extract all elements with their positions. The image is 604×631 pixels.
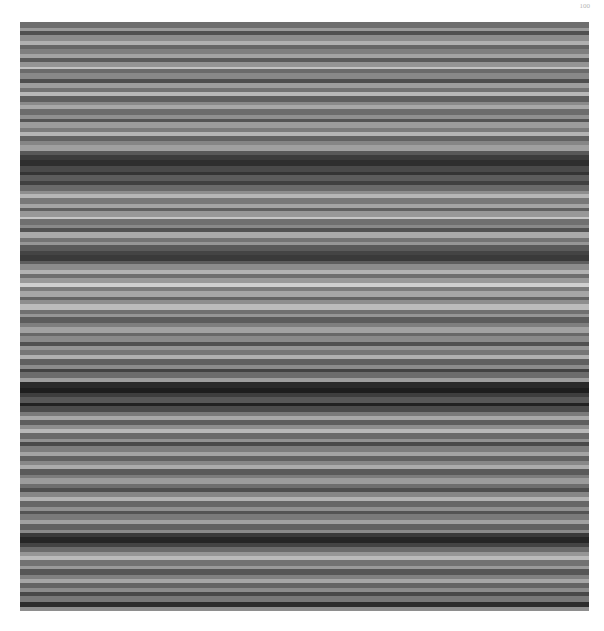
stripe-image [20, 22, 589, 611]
stripe-band [20, 607, 589, 611]
page-number: 100 [580, 2, 591, 10]
